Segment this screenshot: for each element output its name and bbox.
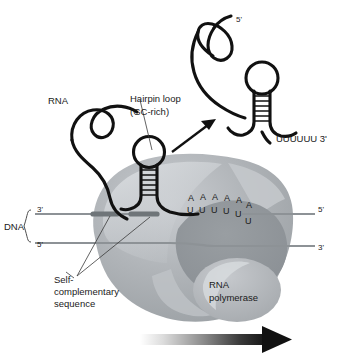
dna-right-top-end-label: 5' [318, 205, 324, 214]
rna-polymerase-label-line2: polymerase [209, 292, 258, 303]
base-top-6: A [246, 200, 252, 210]
released-rna-5prime-label: 5' [236, 15, 242, 24]
base-top-1: A [188, 193, 194, 203]
base-top-2: A [200, 192, 206, 202]
self-complementary-label-line2: complementary [54, 286, 119, 297]
hairpin-loop-label: Hairpin loop [130, 93, 181, 104]
base-top-5: A [236, 195, 242, 205]
released-rna-hairpin [228, 62, 296, 143]
dna-left-bottom-end-label: 5' [37, 240, 43, 249]
hairpin-gc-rich-label: (GC-rich) [130, 106, 169, 117]
transcription-termination-figure: A A A A A A U U U U U U RNA Hairpin loop… [0, 0, 348, 361]
dna-right-bottom-end-label: 3' [318, 243, 324, 252]
self-complementary-label-line3: sequence [54, 298, 95, 309]
base-top-4: A [224, 193, 230, 203]
released-rna-strand [192, 16, 245, 118]
dna-left-top-end-label: 3' [37, 205, 43, 214]
dna-brace [24, 210, 31, 242]
released-hairpin-stem-rungs [254, 96, 270, 121]
rna-polymerase-lobe [193, 258, 281, 322]
base-bottom-4: U [223, 206, 230, 216]
dna-label: DNA [4, 221, 25, 232]
transcription-direction-arrow [140, 326, 292, 353]
base-bottom-1: U [187, 205, 194, 215]
release-arrow [172, 119, 216, 152]
base-top-3: A [212, 192, 218, 202]
base-bottom-2: U [199, 205, 206, 215]
base-bottom-3: U [211, 205, 218, 215]
rna-label: RNA [48, 95, 69, 106]
base-bottom-5: U [235, 209, 242, 219]
released-rna-3prime-tail-label: UUUUUU 3' [276, 133, 327, 144]
self-complementary-label-line1: Self- [54, 274, 74, 285]
rna-polymerase-label-line1: RNA [209, 279, 230, 290]
base-bottom-6: U [245, 216, 252, 226]
